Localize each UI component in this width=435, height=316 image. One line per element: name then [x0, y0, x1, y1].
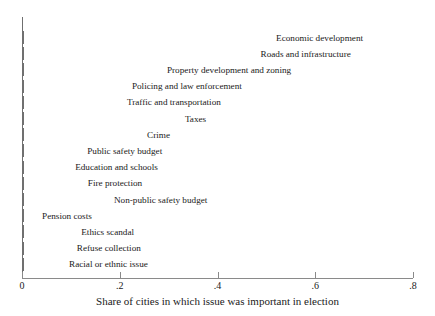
bar — [22, 80, 24, 93]
bar-label: Ethics scandal — [81, 226, 134, 237]
bar — [22, 209, 24, 222]
bar-row: Education and schools — [22, 161, 161, 174]
bar-label: Traffic and transportation — [127, 97, 221, 108]
bar-label: Education and schools — [75, 162, 158, 173]
bar-row: Racial or ethnic issue — [22, 258, 65, 271]
bar — [22, 47, 24, 60]
bar-label: Fire protection — [88, 178, 142, 189]
bar-row: Policing and law enforcement — [22, 80, 245, 93]
bar-label: Racial or ethnic issue — [69, 259, 148, 270]
bar-label: Policing and law enforcement — [132, 81, 242, 92]
bar — [22, 63, 24, 76]
bar-row: Roads and infrastructure — [22, 47, 354, 60]
bar — [22, 128, 24, 141]
bar-label: Economic development — [276, 32, 363, 43]
x-tick-mark — [413, 272, 414, 278]
bar — [22, 112, 24, 125]
horizontal-bar-chart: Economic developmentRoads and infrastruc… — [0, 0, 435, 316]
x-tick-label: .8 — [409, 280, 417, 292]
x-tick-mark — [315, 272, 316, 278]
bar-row: Economic development — [22, 31, 366, 44]
bar-label: Crime — [147, 129, 170, 140]
x-tick-label: 0 — [20, 280, 25, 292]
bar-label: Refuse collection — [77, 243, 141, 254]
bar-row: Refuse collection — [22, 242, 73, 255]
bar-label: Pension costs — [42, 210, 92, 221]
bar — [22, 242, 24, 255]
bar-row: Crime — [22, 128, 173, 141]
bar-row: Fire protection — [22, 177, 145, 190]
bar-row: Ethics scandal — [22, 225, 77, 238]
bar-row: Taxes — [22, 112, 209, 125]
bar — [22, 161, 24, 174]
bar — [22, 177, 24, 190]
bar-label: Roads and infrastructure — [261, 48, 351, 59]
x-tick-label: .6 — [312, 280, 320, 292]
bar-row: Non-public safety budget — [22, 193, 110, 206]
x-tick-mark — [218, 272, 219, 278]
bar-row: Traffic and transportation — [22, 96, 224, 109]
bar-row: Property development and zoning — [22, 63, 294, 76]
bar-label: Taxes — [185, 113, 206, 124]
x-tick-label: .4 — [214, 280, 222, 292]
x-tick-mark — [120, 272, 121, 278]
bar-label: Public safety budget — [87, 145, 162, 156]
bar-row: Pension costs — [22, 209, 95, 222]
bar-label: Property development and zoning — [167, 64, 291, 75]
x-axis-title: Share of cities in which issue was impor… — [0, 294, 435, 308]
x-tick-mark — [22, 272, 23, 278]
x-axis-line — [22, 278, 413, 279]
bar — [22, 258, 24, 271]
plot-area: Economic developmentRoads and infrastruc… — [0, 0, 435, 316]
bar — [22, 225, 24, 238]
bar-label: Non-public safety budget — [114, 194, 207, 205]
bar-row: Public safety budget — [22, 144, 165, 157]
bar — [22, 193, 24, 206]
bar — [22, 96, 24, 109]
bar — [22, 144, 24, 157]
bar — [22, 31, 24, 44]
x-tick-label: .2 — [116, 280, 124, 292]
